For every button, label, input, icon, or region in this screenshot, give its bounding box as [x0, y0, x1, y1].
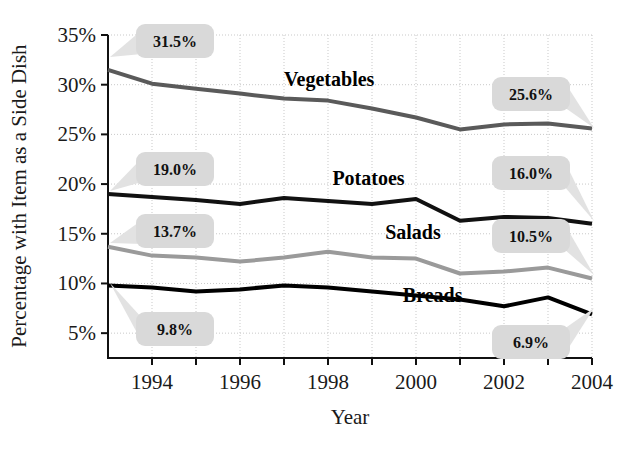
callout-value: 31.5% — [153, 33, 197, 50]
y-tick-label: 15% — [58, 222, 97, 246]
callout-value: 19.0% — [153, 161, 197, 178]
y-tick-label: 25% — [58, 122, 97, 146]
line-chart: 5%10%15%20%25%30%35% 1994199619982000200… — [0, 0, 638, 449]
series-label-vegetables: Vegetables — [284, 68, 375, 91]
x-tick-label: 1998 — [307, 370, 349, 394]
series-label-breads: Breads — [403, 284, 463, 306]
y-tick-label: 10% — [58, 271, 97, 295]
y-tick-label: 30% — [58, 73, 97, 97]
x-axis-title: Year — [331, 405, 370, 429]
y-axis-title: Percentage with Item as a Side Dish — [7, 44, 31, 348]
x-tick-label: 1994 — [131, 370, 174, 394]
series-label-potatoes: Potatoes — [332, 167, 404, 189]
x-tick-label: 1996 — [219, 370, 261, 394]
chart-canvas: 5%10%15%20%25%30%35% 1994199619982000200… — [0, 0, 638, 449]
callout-value: 25.6% — [509, 86, 553, 103]
x-tick-label: 2002 — [483, 370, 525, 394]
y-tick-label: 35% — [58, 23, 97, 47]
y-tick-label: 20% — [58, 172, 97, 196]
callout-value: 13.7% — [153, 223, 197, 240]
x-tick-label: 2004 — [571, 370, 614, 394]
series-label-salads: Salads — [385, 221, 441, 243]
callout-value: 9.8% — [157, 321, 193, 338]
callout-value: 6.9% — [513, 334, 549, 351]
x-tick-label: 2000 — [395, 370, 437, 394]
callout-value: 10.5% — [509, 228, 553, 245]
callout-value: 16.0% — [509, 165, 553, 182]
y-tick-label: 5% — [68, 321, 96, 345]
